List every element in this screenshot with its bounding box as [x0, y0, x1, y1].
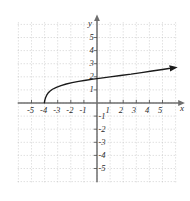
y-tick-label: 4 [90, 46, 94, 55]
y-tick-label: 3 [90, 59, 94, 68]
y-tick-label: 1 [90, 85, 94, 94]
x-tick-label: -5 [27, 106, 34, 115]
x-tick-label: 2 [119, 106, 123, 115]
y-tick-label: -5 [99, 164, 106, 173]
y-tick-label: -2 [99, 125, 106, 134]
y-tick-label: 5 [90, 33, 94, 42]
y-axis-label: y [88, 19, 92, 28]
x-tick-label: 1 [106, 106, 110, 115]
x-tick-label: -1 [79, 106, 86, 115]
x-tick-label: 5 [158, 106, 162, 115]
graph-figure: -5-4-3-2-11234554321-1-2-3-4-5 x y [0, 0, 190, 201]
x-tick-label: -2 [66, 106, 73, 115]
function-curve [44, 68, 170, 102]
x-tick-label: -3 [53, 106, 60, 115]
y-tick-label: -4 [99, 151, 106, 160]
y-tick-label: -3 [99, 138, 106, 147]
y-tick-label: -1 [99, 112, 106, 121]
x-tick-label: 3 [132, 106, 136, 115]
x-tick-label: -4 [40, 106, 47, 115]
coordinate-plane [0, 0, 190, 201]
x-tick-label: 4 [145, 106, 149, 115]
y-tick-label: 2 [90, 72, 94, 81]
x-axis-label: x [180, 104, 184, 113]
curve-path [44, 68, 170, 102]
